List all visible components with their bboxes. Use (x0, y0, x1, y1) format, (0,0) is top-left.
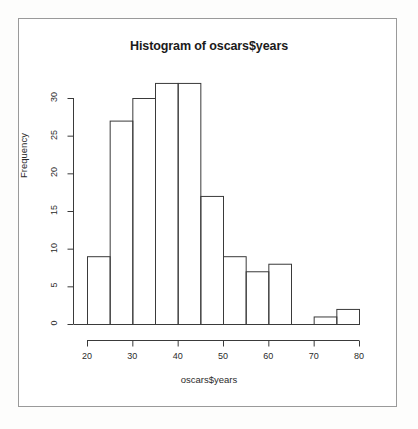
y-tick-label: 5 (49, 275, 59, 295)
histogram-bar (224, 257, 247, 325)
y-axis (68, 98, 74, 325)
histogram-bar (178, 83, 201, 324)
y-tick-label: 15 (49, 200, 59, 220)
histogram-bars (88, 83, 360, 324)
x-tick-label: 80 (347, 351, 371, 361)
histogram-bar (269, 264, 292, 324)
plot-canvas (0, 0, 418, 429)
y-tick-label: 10 (49, 238, 59, 258)
histogram-bar (110, 121, 133, 324)
histogram-bar (201, 196, 224, 324)
histogram-bar (314, 317, 337, 325)
y-tick-label: 25 (49, 125, 59, 145)
y-tick-label: 0 (49, 313, 59, 333)
histogram-figure: Histogram of oscars$years 051015202530 2… (0, 0, 418, 429)
x-tick-label: 20 (75, 351, 99, 361)
histogram-bar (88, 257, 111, 325)
y-tick-label: 30 (49, 87, 59, 107)
histogram-bar (246, 272, 269, 325)
histogram-bar (337, 309, 360, 324)
x-tick-label: 30 (120, 351, 144, 361)
histogram-bar (133, 99, 156, 325)
x-axis (87, 341, 360, 347)
histogram-bar (156, 83, 179, 324)
y-axis-title: Frequency (18, 164, 29, 178)
x-tick-label: 70 (302, 351, 326, 361)
x-axis-title: oscars$years (0, 374, 418, 385)
y-axis-ticks (68, 99, 74, 325)
y-tick-label: 20 (49, 162, 59, 182)
x-tick-label: 40 (166, 351, 190, 361)
x-axis-ticks (88, 341, 360, 347)
x-tick-label: 50 (211, 351, 235, 361)
x-tick-label: 60 (256, 351, 280, 361)
